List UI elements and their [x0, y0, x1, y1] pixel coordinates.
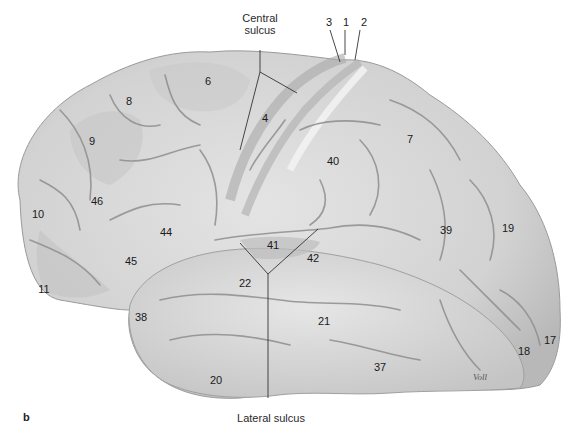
- area-2-top-label: 2: [361, 16, 367, 28]
- central-sulcus-line2: sulcus: [242, 24, 277, 36]
- area-label-18: 18: [518, 345, 530, 357]
- area-label-22: 22: [239, 277, 251, 289]
- area-label-20: 20: [210, 374, 222, 386]
- area-label-4: 4: [262, 112, 268, 124]
- area-3-top-label: 3: [326, 16, 332, 28]
- area-1-top-label: 1: [343, 16, 349, 28]
- area-label-8: 8: [126, 95, 132, 107]
- area-label-17: 17: [544, 334, 556, 346]
- area-label-45: 45: [125, 255, 137, 267]
- area-label-40: 40: [327, 155, 339, 167]
- lateral-sulcus-label: Lateral sulcus: [237, 412, 305, 424]
- area-label-10: 10: [32, 208, 44, 220]
- area-label-38: 38: [135, 311, 147, 323]
- area-label-6: 6: [205, 75, 211, 87]
- area-label-42: 42: [307, 252, 319, 264]
- area-label-44: 44: [160, 226, 172, 238]
- central-sulcus-label: Central sulcus: [242, 12, 277, 36]
- area-label-41: 41: [267, 239, 279, 251]
- area-label-9: 9: [89, 135, 95, 147]
- area-label-46: 46: [91, 195, 103, 207]
- area-label-7: 7: [407, 133, 413, 145]
- brain-illustration: Voll: [0, 0, 573, 430]
- area-label-37: 37: [374, 361, 386, 373]
- area-label-11: 11: [38, 283, 49, 295]
- central-sulcus-line1: Central: [242, 12, 277, 24]
- area-label-21: 21: [318, 315, 330, 327]
- artist-signature: Voll: [473, 372, 488, 382]
- panel-label: b: [23, 411, 30, 423]
- area-label-19: 19: [502, 222, 514, 234]
- area-label-39: 39: [440, 224, 452, 236]
